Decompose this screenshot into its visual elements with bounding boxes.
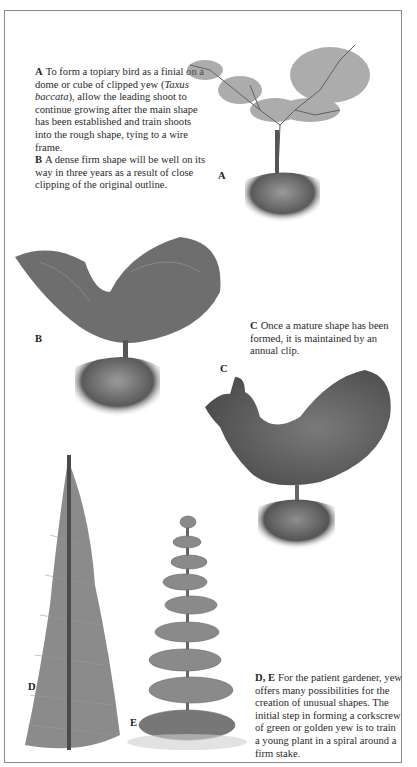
caption-b-label: B xyxy=(35,154,42,165)
caption-c: COnce a mature shape has been formed, it… xyxy=(250,320,400,358)
illustration-a xyxy=(180,30,390,230)
caption-c-text: Once a mature shape has been formed, it … xyxy=(250,320,389,356)
caption-de-text: For the patient gardener, yew offers man… xyxy=(255,672,402,759)
figure-label-e: E xyxy=(130,717,137,728)
caption-c-label: C xyxy=(250,320,258,331)
illustration-d xyxy=(20,455,120,760)
figure-label-d: D xyxy=(28,681,36,692)
figure-label-a: A xyxy=(218,170,226,181)
caption-a-label: A xyxy=(35,66,43,77)
caption-d-e: D, EFor the patient gardener, yew offers… xyxy=(255,672,403,760)
illustration-e xyxy=(125,510,250,755)
figure-label-c: C xyxy=(220,363,228,374)
figure-label-b: B xyxy=(35,333,42,344)
caption-de-label: D, E xyxy=(255,672,275,683)
